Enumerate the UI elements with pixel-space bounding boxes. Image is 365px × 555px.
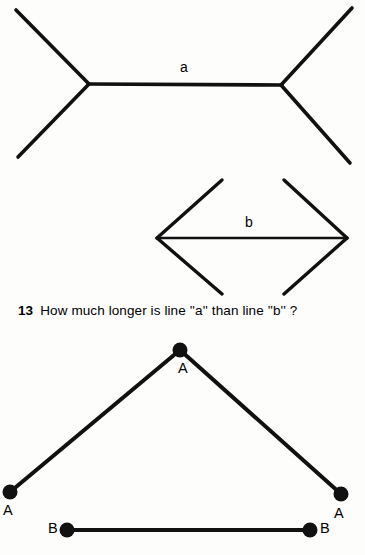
worksheet-page: a b 13 How much longer is line ''a'' tha… [0, 0, 365, 555]
chevron-right-arm [180, 350, 341, 494]
line-b-fin-upper-left [157, 180, 222, 238]
line-b-fin-upper-right [284, 180, 347, 238]
line-a-fin-lower-left [18, 84, 89, 157]
segment-left-dot [60, 523, 75, 538]
line-a-label: a [180, 60, 188, 74]
chevron-right-label: A [334, 506, 344, 521]
question-text: How much longer is line ''a'' than line … [40, 303, 297, 318]
question-number: 13 [18, 303, 33, 318]
segment-right-dot [303, 523, 318, 538]
question-row: 13 How much longer is line ''a'' than li… [18, 303, 358, 318]
chevron-left-dot [3, 485, 18, 500]
line-b-label: b [245, 215, 253, 229]
segment-figure [60, 523, 318, 538]
segment-right-label: B [320, 521, 330, 536]
line-b-fin-lower-right [284, 238, 347, 294]
segment-left-label: B [48, 521, 58, 536]
line-a-fin-upper-left [16, 10, 89, 84]
chevron-figure [3, 343, 349, 502]
line-b-fin-lower-left [157, 238, 222, 294]
line-a-shaft [88, 84, 282, 85]
diagram-canvas [0, 0, 365, 555]
chevron-apex-label: A [178, 361, 188, 376]
chevron-left-label: A [3, 503, 13, 518]
chevron-left-arm [10, 350, 180, 492]
chevron-right-dot [334, 487, 349, 502]
muller-lyer-line-b [157, 180, 347, 294]
chevron-apex-dot [173, 343, 188, 358]
line-a-fin-lower-right [281, 85, 350, 163]
line-a-fin-upper-right [281, 8, 352, 85]
muller-lyer-line-a [16, 8, 352, 163]
